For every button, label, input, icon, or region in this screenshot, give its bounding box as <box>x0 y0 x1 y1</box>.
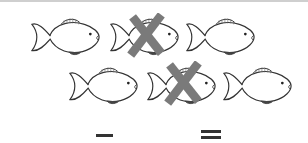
top-border <box>0 0 308 2</box>
x-cross-icon <box>123 13 169 59</box>
fish-icon <box>68 63 140 107</box>
fish-row2-1 <box>68 63 140 107</box>
second-number-blank[interactable] <box>125 126 185 140</box>
fish-icon <box>30 14 102 58</box>
x-cross-icon <box>160 61 206 107</box>
cross-out-mark-1 <box>123 13 169 59</box>
first-number-blank[interactable] <box>50 126 86 140</box>
fish-row2-3 <box>222 63 294 107</box>
fish-icon <box>222 63 294 107</box>
cross-out-mark-2 <box>160 61 206 107</box>
fish-row1-3 <box>185 14 257 58</box>
minus-sign <box>96 134 113 137</box>
fish-row1-1 <box>30 14 102 58</box>
answer-blank[interactable] <box>232 126 282 140</box>
equals-sign <box>201 130 221 139</box>
fish-icon <box>185 14 257 58</box>
